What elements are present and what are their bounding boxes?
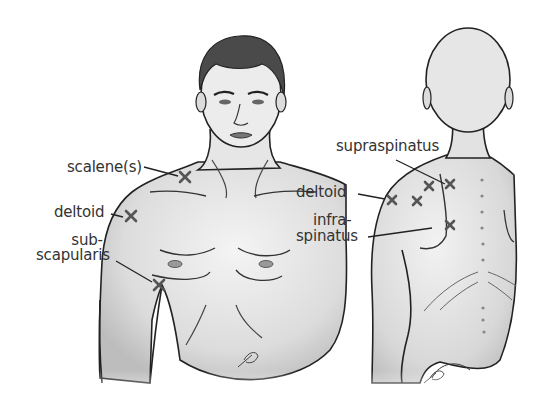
label-deltoid-front: deltoid (54, 204, 104, 220)
label-deltoid-back: deltoid (296, 184, 346, 200)
label-supraspinatus: supraspinatus (336, 138, 439, 154)
label-subscapularis-line2: scapularis (36, 247, 110, 263)
shoulder-trigger-point-diagram: scalene(s) deltoid sub- scapularis supra… (0, 0, 554, 411)
label-scalenes: scalene(s) (67, 159, 142, 175)
back-figure (372, 28, 517, 383)
label-infraspinatus-line1: infra- (313, 212, 352, 228)
front-figure (99, 36, 346, 383)
label-infraspinatus-line2: spinatus (296, 228, 358, 244)
